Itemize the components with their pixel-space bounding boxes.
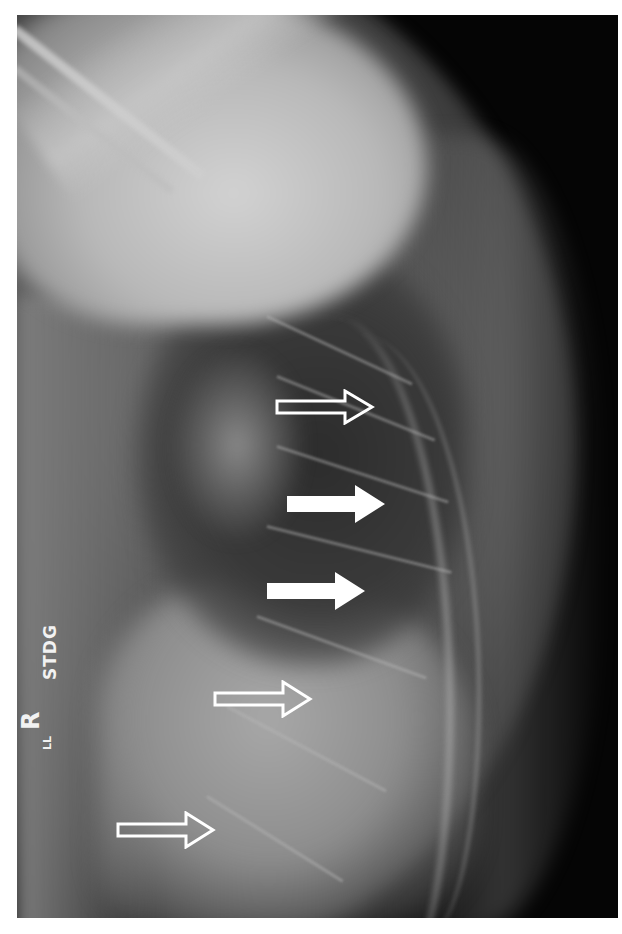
side-marker: R [17, 712, 45, 730]
technique-label: STDG [40, 624, 60, 680]
outline-arrow-icon [116, 811, 216, 849]
outline-arrow-icon [275, 389, 375, 425]
xray-image: STDG R LL [17, 15, 618, 918]
solid-arrow-icon [287, 485, 387, 523]
side-marker-sub: LL [41, 736, 54, 750]
hilum-density [167, 345, 307, 545]
solid-arrow-icon [267, 572, 367, 610]
outline-arrow-icon [213, 680, 313, 718]
